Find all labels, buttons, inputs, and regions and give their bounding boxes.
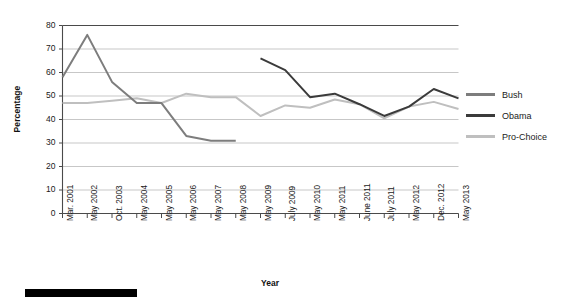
legend-item[interactable]: Obama [466, 105, 581, 126]
x-tick-label: May 2008 [239, 185, 248, 221]
x-tick-label: May 2009 [264, 185, 273, 221]
y-axis-title: Percentage [12, 79, 22, 139]
x-tick-label: May 2004 [140, 185, 149, 221]
x-tick-label: May 2006 [189, 185, 198, 221]
x-axis-title: Year [220, 278, 320, 288]
series-line-bush [63, 35, 236, 141]
y-tick-label: 10 [30, 185, 56, 194]
x-tick-label: May 2013 [462, 185, 471, 221]
legend-swatch-icon [466, 135, 495, 138]
legend-swatch-icon [466, 93, 495, 96]
caption-bar [25, 289, 137, 297]
legend-item[interactable]: Bush [466, 84, 581, 105]
x-tick-label: Dec. 2012 [437, 183, 446, 220]
legend-label: Obama [502, 111, 532, 121]
legend-label: Bush [502, 90, 523, 100]
plot-area [0, 0, 583, 303]
legend-item[interactable]: Pro-Choice [466, 126, 581, 147]
chart-legend: BushObamaPro-Choice [466, 84, 581, 147]
x-tick-label: May 2007 [214, 185, 223, 221]
x-tick-label: May 2011 [338, 185, 347, 220]
y-tick-label: 20 [30, 162, 56, 171]
chart-figure: Percentage 80706050403020100 Mar. 2001Ma… [0, 0, 583, 303]
x-tick-label: June 2011 [363, 183, 372, 221]
x-tick-label: Oct. 2003 [115, 185, 124, 221]
x-tick-label: May 2002 [90, 185, 99, 221]
series-line-obama [261, 58, 459, 116]
y-tick-label: 50 [30, 91, 56, 100]
x-tick-label: May 2012 [412, 185, 421, 221]
x-tick-label: May 2005 [165, 185, 174, 221]
y-tick-label: 70 [30, 44, 56, 53]
y-tick-label: 0 [30, 209, 56, 218]
y-tick-label: 60 [30, 68, 56, 77]
legend-label: Pro-Choice [502, 132, 547, 142]
legend-swatch-icon [466, 114, 495, 117]
series-line-pro-choice [63, 94, 459, 119]
x-tick-label: July 2009 [288, 185, 297, 220]
y-tick-label: 40 [30, 115, 56, 124]
x-tick-label: Mar. 2001 [66, 184, 75, 220]
y-tick-label: 80 [30, 21, 56, 30]
x-tick-label: July 2011 [387, 186, 396, 220]
x-tick-label: May 2010 [313, 185, 322, 221]
y-tick-label: 30 [30, 138, 56, 147]
